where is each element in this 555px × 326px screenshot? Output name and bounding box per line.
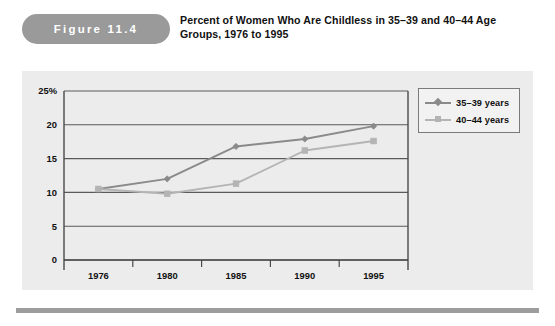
square-marker-icon [435,116,441,122]
data-point-marker [371,138,377,144]
x-tick-label: 1976 [88,270,109,281]
chart-panel: 0510152025% 19761980198519901995 35–39 y… [22,71,533,290]
x-axis-tick-labels: 19761980198519901995 [88,270,384,281]
data-point-marker [96,186,102,192]
data-series-group [95,123,376,197]
series-line-1 [98,126,373,189]
diamond-marker-icon [434,98,442,106]
chart-legend: 35–39 years 40–44 years [418,88,520,133]
legend-label-35-39: 35–39 years [456,98,509,108]
data-point-marker [233,181,239,187]
y-tick-label: 20 [47,119,57,130]
y-tick-label: 15 [47,153,57,164]
legend-swatch-35-39 [425,97,451,108]
legend-swatch-40-44 [425,114,451,125]
y-axis-tick-labels: 0510152025% [38,85,57,265]
y-tick-label: 10 [47,187,57,198]
data-point-marker [302,148,308,154]
legend-entry-35-39: 35–39 years [425,94,519,111]
data-point-marker [164,176,170,182]
bottom-divider-rule [16,308,539,313]
y-tick-label: 5 [52,221,57,232]
data-point-marker [164,191,170,197]
legend-label-40-44: 40–44 years [456,115,509,125]
x-tick-label: 1995 [363,270,384,281]
x-tick-label: 1990 [294,270,315,281]
y-tick-label: 0 [52,254,57,265]
figure-header: Figure 11.4 Percent of Women Who Are Chi… [0,0,555,58]
x-tick-label: 1985 [226,270,247,281]
figure-title: Percent of Women Who Are Childless in 35… [180,14,530,41]
gridlines-group [64,91,408,260]
x-tick-label: 1980 [157,270,178,281]
data-point-marker [371,123,377,129]
figure-number-badge: Figure 11.4 [22,14,170,44]
data-point-marker [233,143,239,149]
data-point-marker [302,136,308,142]
legend-entry-40-44: 40–44 years [425,111,519,128]
y-tick-label: 25% [38,85,57,96]
